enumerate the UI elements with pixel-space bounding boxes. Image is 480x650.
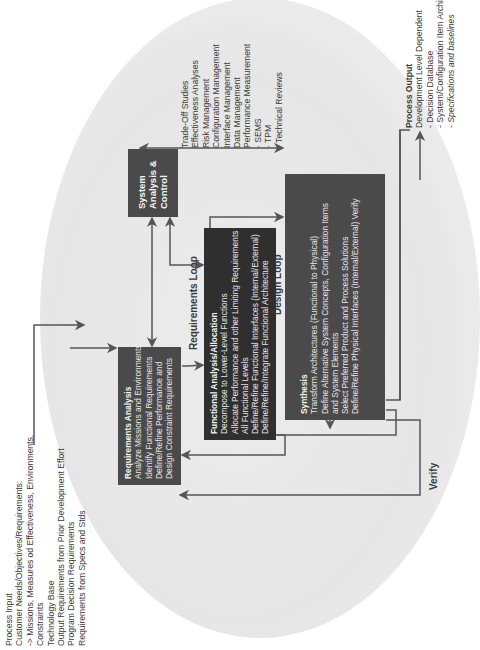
- sac-title-line: System: [136, 157, 147, 209]
- functional-analysis-line: Allocate Performance and other Limiting …: [230, 234, 240, 434]
- functional-analysis-box: Functional Analysis/Allocation Decompose…: [204, 228, 276, 440]
- process-input-title: Process Input: [4, 435, 14, 646]
- process-input-line: Constraints: [35, 435, 45, 646]
- process-input-line: Output Requirements from Prior Developme…: [56, 435, 66, 646]
- synthesis-box: Synthesis Transform Architectures (Funct…: [285, 174, 385, 420]
- process-output-block: Process Output Development Level Depende…: [404, 0, 456, 128]
- sac-title-line: Analysis &: [147, 157, 158, 209]
- control-tool-item: · TPM: [263, 44, 273, 148]
- synthesis-line: Define Alternative System Concepts, Conf…: [320, 180, 330, 414]
- process-input-line: Technology Base: [46, 435, 56, 646]
- process-input-line: -> Missions, Measures od Effectiveness, …: [25, 435, 35, 646]
- requirements-analysis-title: Requirements Analysis: [123, 353, 133, 479]
- synthesis-title: Synthesis: [299, 180, 309, 414]
- requirements-analysis-box: Requirements Analysis Analyze Missions a…: [118, 347, 181, 485]
- process-input-line: Customer Needs/Objectives/Requirements:: [14, 435, 24, 646]
- control-tool-item: Trade-Off Studies: [180, 44, 190, 148]
- control-tool-item: Configuration Management: [211, 44, 221, 148]
- requirements-loop-label: Requirements Loop: [188, 256, 199, 350]
- control-tool-item: · Technical Reviews: [274, 44, 284, 148]
- requirements-analysis-line: Identify Functional Requirements: [144, 353, 154, 479]
- process-input-line: Program Decision Requirements: [66, 435, 76, 646]
- functional-analysis-title: Functional Analysis/Allocation: [209, 234, 219, 434]
- functional-analysis-line: Define/Refine Functional Interfaces (Int…: [250, 234, 260, 434]
- synthesis-line: Transform Architectures (Functional to P…: [309, 180, 319, 414]
- functional-analysis-line: Define/Refine/Integrate Functional Archi…: [260, 234, 270, 434]
- control-tool-item: Performance Measurement: [242, 44, 252, 148]
- process-input-block: Process Input Customer Needs/Objectives/…: [4, 435, 87, 646]
- sac-title-line: Control: [158, 157, 169, 209]
- process-output-line: Development Level Dependent: [414, 0, 424, 128]
- requirements-analysis-line: Define/Refine Performance and: [154, 353, 164, 479]
- process-output-line: - Decision Database: [425, 0, 435, 128]
- process-input-line: Requirements from Specs and Stds: [77, 435, 87, 646]
- synthesis-line: Define/Refine Physical Interfaces (Inter…: [350, 180, 360, 414]
- synthesis-line: and System Elements: [330, 180, 340, 414]
- process-output-line: - System/Configuration Item Architecture: [435, 0, 445, 128]
- requirements-analysis-line: Analyze Missions and Environments: [133, 353, 143, 479]
- control-tool-item: Interface Management: [222, 44, 232, 148]
- synthesis-line: Select Preferred Product and Process Sol…: [340, 180, 350, 414]
- process-output-title: Process Output: [404, 0, 414, 128]
- control-tool-item: Data Management: [232, 44, 242, 148]
- control-tool-item: Effectiveness Analyses: [190, 44, 200, 148]
- design-loop-label: Design Loop: [272, 254, 283, 315]
- process-output-line: - Specifications and baselines: [446, 0, 456, 128]
- requirements-analysis-line: Design Constraint Requirements: [164, 353, 174, 479]
- control-tool-item: Risk Management: [201, 44, 211, 148]
- system-analysis-control-box: System Analysis & Control: [128, 149, 178, 217]
- functional-analysis-line: All Functional Levels: [240, 234, 250, 434]
- control-tool-item: · SEMS: [253, 44, 263, 148]
- verify-label: Verify: [428, 463, 439, 490]
- control-tools-list: Trade-Off Studies Effectiveness Analyses…: [180, 44, 284, 148]
- systems-engineering-process-diagram: Process Input Customer Needs/Objectives/…: [0, 0, 480, 650]
- functional-analysis-line: Decompose to Lower-Level Functions: [219, 234, 229, 434]
